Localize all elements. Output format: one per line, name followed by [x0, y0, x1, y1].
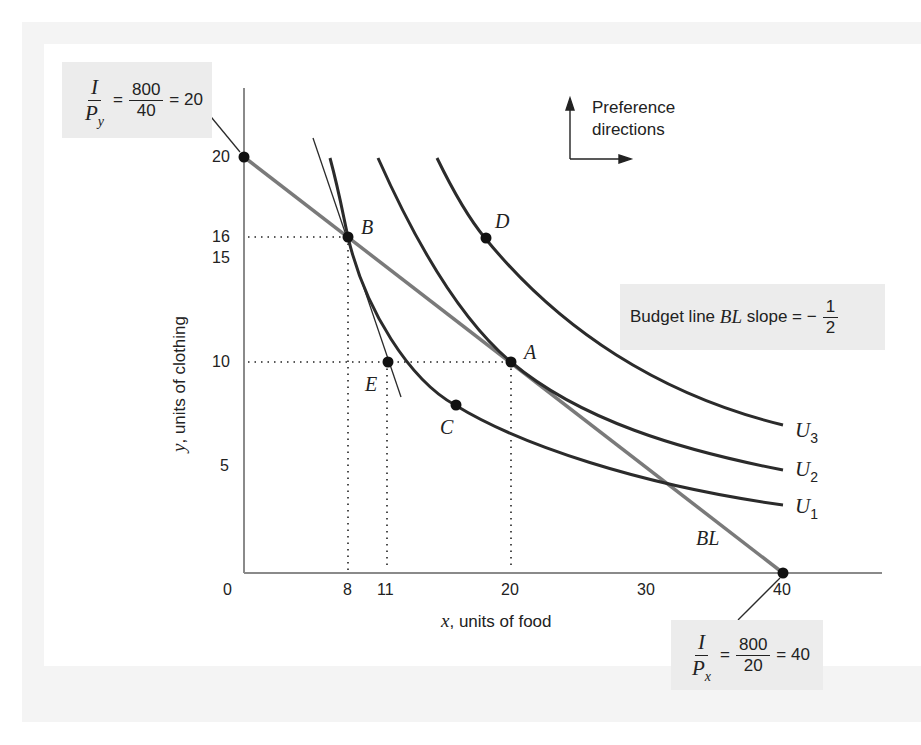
fraction-i-over-px: I Px: [689, 631, 714, 678]
y-axis-title: y, units of clothing: [168, 316, 190, 452]
fraction-800-over-40: 800 40: [129, 81, 163, 120]
point-y-intercept: [239, 152, 250, 163]
point-label-c: C: [440, 416, 453, 439]
point-a: [506, 357, 517, 368]
fraction-1-over-2: 1 2: [823, 298, 838, 337]
curve-label-u3: U3: [795, 418, 818, 443]
x-tick-0: 0: [223, 581, 232, 599]
point-label-b: B: [361, 216, 373, 239]
point-x-intercept: [778, 568, 789, 579]
y-tick-10: 10: [212, 353, 230, 371]
point-b: [343, 232, 354, 243]
point-e: [383, 357, 394, 368]
point-label-e: E: [365, 373, 377, 396]
x-tick-30: 30: [637, 581, 655, 599]
preference-directions-label: Preference directions: [592, 97, 675, 141]
fraction-i-over-py: I Py: [82, 76, 107, 123]
x-tick-20: 20: [501, 581, 519, 599]
x-axis-title: x, units of food: [441, 610, 552, 632]
y-tick-15: 15: [212, 249, 230, 267]
y-tick-16: 16: [212, 228, 230, 246]
curve-label-bl: BL: [696, 527, 719, 550]
point-label-d: D: [495, 210, 509, 233]
dotted-guides: [248, 237, 511, 570]
fraction-800-over-20: 800 20: [736, 636, 770, 675]
curve-label-u2: U2: [795, 457, 818, 482]
y-tick-20: 20: [212, 148, 230, 166]
y-tick-5: 5: [220, 457, 229, 475]
x-tick-11: 11: [377, 581, 394, 599]
point-label-a: A: [524, 341, 536, 364]
curve-label-u1: U1: [795, 494, 818, 519]
x-intercept-formula-box: I Px = 800 20 = 40: [671, 620, 823, 690]
x-tick-8: 8: [343, 581, 352, 599]
point-c: [451, 400, 462, 411]
point-d: [481, 233, 492, 244]
budget-line-slope-box: Budget line BL slope = − 1 2: [620, 284, 885, 350]
y-intercept-formula-box: I Py = 800 40 = 20: [62, 62, 212, 138]
x-tick-40: 40: [773, 581, 791, 599]
